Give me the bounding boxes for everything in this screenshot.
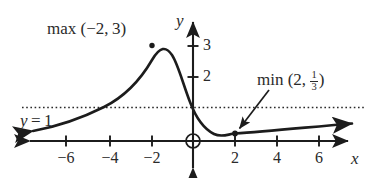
- y-tick-label-2: 2: [203, 68, 211, 84]
- minimum-annotation-label: min (2, 13): [257, 70, 324, 93]
- x-tick-label-minus-6: −6: [57, 150, 74, 166]
- x-tick-label-minus-2: −2: [143, 150, 160, 166]
- x-axis-label: x: [351, 150, 359, 167]
- maximum-point-dot: [149, 43, 154, 48]
- x-tick-label-minus-4: −4: [101, 150, 118, 166]
- min-label-prefix: min (2,: [257, 70, 310, 89]
- min-label-pointer-arrow: [240, 90, 270, 129]
- min-label-suffix: ): [319, 70, 325, 89]
- one-third-fraction: 13: [310, 70, 318, 93]
- fraction-numerator: 1: [310, 70, 318, 81]
- y-tick-label-3: 3: [203, 37, 211, 53]
- asymptote-annotation-label: y = 1: [20, 112, 52, 129]
- asymptote-label-variable: y: [20, 111, 28, 130]
- asymptote-label-value: = 1: [28, 111, 53, 130]
- function-graph-figure: max (−2, 3) min (2, 13) y = 1 y x 3 2 −6…: [0, 0, 370, 178]
- minimum-point-dot: [232, 131, 238, 137]
- x-tick-label-6: 6: [315, 150, 323, 166]
- x-tick-label-2: 2: [231, 150, 239, 166]
- maximum-annotation-label: max (−2, 3): [47, 20, 126, 37]
- fraction-denominator: 3: [310, 81, 318, 93]
- x-tick-label-4: 4: [273, 150, 281, 166]
- y-axis-label: y: [176, 12, 184, 29]
